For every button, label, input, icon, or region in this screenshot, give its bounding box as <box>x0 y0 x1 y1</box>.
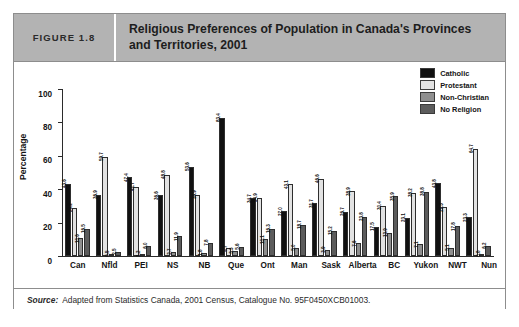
bar-value-label: 31.7 <box>310 199 315 208</box>
bar-value-label: 17.5 <box>372 222 377 231</box>
bar-value-label: 16.5 <box>82 224 87 233</box>
x-axis-label: Que <box>220 261 252 277</box>
x-axis-label: PEI <box>125 261 157 277</box>
bar-value-label: 5.0 <box>292 245 297 251</box>
bar-group: 27.043.15.018.7 <box>278 90 309 256</box>
figure-number: FIGURE 1.8 <box>14 14 116 61</box>
legend-label: Protestant <box>440 81 477 90</box>
y-axis-tick-label: 40 <box>43 189 52 190</box>
bar: 59.7 <box>102 157 107 256</box>
y-axis-tick-label: 20 <box>43 223 52 224</box>
bar-value-label: 4.7 <box>224 245 229 251</box>
y-axis-tick: 0 <box>58 256 63 257</box>
bar: 43.6 <box>65 184 70 256</box>
bar: 0.8 <box>479 254 484 256</box>
bar: 5.1 <box>448 248 453 256</box>
bar-value-label: 43.8 <box>434 179 439 188</box>
bar-value-label: 1.2 <box>138 251 143 257</box>
bar-value-label: 34.9 <box>255 194 260 203</box>
bar-value-label: 29.3 <box>440 203 445 212</box>
bar-value-label: 53.6 <box>187 163 192 172</box>
legend-item: Catholic <box>420 68 489 78</box>
x-axis-label: BC <box>378 261 410 277</box>
bar: 10.1 <box>263 239 268 256</box>
bar-value-label: 18.7 <box>298 220 303 229</box>
bar: 16.5 <box>84 229 89 256</box>
x-axis-label: NS <box>157 261 189 277</box>
x-axis-label: Nfld <box>94 261 126 277</box>
bar: 23.8 <box>362 217 367 257</box>
bar: 5.0 <box>294 248 299 256</box>
source-word: Source: <box>27 295 58 305</box>
bar-value-label: 3.3 <box>230 247 235 253</box>
figure-header: FIGURE 1.8 Religious Preferences of Popu… <box>14 14 505 62</box>
bar-value-label: 43.6 <box>63 179 68 188</box>
bar-group: 34.734.910.116.3 <box>247 90 278 256</box>
bar-value-label: 27.0 <box>279 207 284 216</box>
x-axis-label: Man <box>283 261 315 277</box>
bar-group: 26.738.97.623.8 <box>340 90 371 256</box>
bar-value-label: 36.6 <box>156 191 161 200</box>
bar-value-label: 0.8 <box>477 251 482 257</box>
bar-group: 31.746.63.915.2 <box>309 90 340 256</box>
bar-group: 47.441.71.26.0 <box>124 90 155 256</box>
bar: 46.6 <box>318 179 323 256</box>
x-axis-label: Can <box>62 261 94 277</box>
x-axis-label: Sask <box>315 261 347 277</box>
bar: 83.4 <box>219 118 224 256</box>
bar-group: 36.648.82.711.9 <box>155 90 186 256</box>
bar: 23.3 <box>466 217 471 256</box>
bar: 36.9 <box>96 195 101 256</box>
bar-value-label: 23.8 <box>360 212 365 221</box>
bar-value-label: 23.1 <box>403 213 408 222</box>
y-axis-title: Percentage <box>18 134 28 180</box>
bar-group: 83.44.73.35.6 <box>216 90 247 256</box>
bar-value-label: 5.1 <box>446 244 451 250</box>
figure-container: FIGURE 1.8 Religious Preferences of Popu… <box>13 13 506 309</box>
bar-value-label: 2.7 <box>169 248 174 254</box>
bar-value-label: 10.6 <box>76 234 81 243</box>
source-text: Adapted from Statistics Canada, 2001 Cen… <box>62 295 370 305</box>
bar-group: 43.629.210.616.5 <box>62 90 93 256</box>
bar-value-label: 30.4 <box>378 201 383 210</box>
bar-group: 53.636.91.87.8 <box>185 90 216 256</box>
bar: 26.7 <box>343 212 348 256</box>
bar: 48.8 <box>164 175 169 256</box>
bar-value-label: 34.7 <box>248 194 253 203</box>
bar-value-label: 7.8 <box>206 240 211 246</box>
bar-value-label: 59.7 <box>100 152 105 161</box>
bar: 3.9 <box>325 250 330 256</box>
bar-value-label: 64.7 <box>471 144 476 153</box>
bar: 35.9 <box>393 196 398 256</box>
y-axis-tick-label: 100 <box>38 89 52 90</box>
legend-swatch-icon <box>420 68 435 78</box>
figure-title: Religious Preferences of Population in C… <box>116 14 505 61</box>
bar-value-label: 36.9 <box>193 190 198 199</box>
figure-source: Source: Adapted from Statistics Canada, … <box>14 289 505 310</box>
bar: 10.6 <box>78 238 83 256</box>
bar-value-label: 26.7 <box>341 207 346 216</box>
bar-value-label: 11.9 <box>175 232 180 241</box>
bar-value-label: 29.2 <box>70 203 75 212</box>
legend-item: Protestant <box>420 80 489 90</box>
bar-value-label: 6.0 <box>144 243 149 249</box>
y-axis-tick-label: 80 <box>43 123 52 124</box>
bar: 7.8 <box>208 243 213 256</box>
bar: 34.9 <box>257 198 262 256</box>
bar-value-label: 23.3 <box>464 213 469 222</box>
bar: 3.3 <box>232 251 237 256</box>
bar-value-label: 17.8 <box>453 222 458 231</box>
bar-value-label: 2.5 <box>113 249 118 255</box>
bar-group: 36.959.70.52.5 <box>93 90 124 256</box>
bar: 38.8 <box>424 192 429 256</box>
x-axis-label: Nun <box>473 261 505 277</box>
bar-value-label: 13.9 <box>385 228 390 237</box>
x-axis-label: NWT <box>442 261 474 277</box>
bar: 6.0 <box>146 246 151 256</box>
bar: 7.6 <box>356 243 361 256</box>
bar: 13.9 <box>387 233 392 256</box>
bar: 23.1 <box>405 218 410 256</box>
bar: 5.6 <box>239 247 244 256</box>
bar: 1.8 <box>201 253 206 256</box>
x-axis-label: Ont <box>252 261 284 277</box>
